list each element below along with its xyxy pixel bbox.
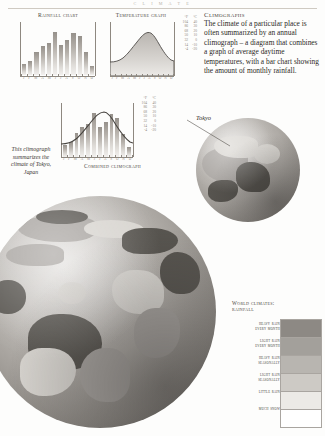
legend-label-line2: every month	[232, 343, 280, 348]
rainfall-bars	[21, 28, 95, 75]
legend: World climates: rainfall heavy rainevery…	[232, 300, 324, 421]
legend-label-line2: every month	[232, 326, 280, 331]
scale-tick-label: -20	[147, 128, 156, 133]
combined-climograph-panel: JFMAMJJASOND °F 1048668503214-4 °C 40302…	[55, 95, 170, 173]
temperature-c-ticks: 403020100-10-20	[188, 20, 197, 52]
combined-plot: JFMAMJJASOND °F 1048668503214-4 °C 40302…	[55, 103, 170, 163]
legend-label: light rainevery month	[232, 338, 280, 349]
scale-tick-label: -20	[188, 47, 197, 52]
combined-f-ticks: 1048668503214-4	[136, 101, 147, 133]
combined-scale-fahrenheit: °F 1048668503214-4	[136, 96, 147, 133]
page: C L I M A T E Rainfall chart JFMAMJJASON…	[0, 0, 325, 436]
legend-title-line2: rainfall	[232, 306, 324, 312]
scale-tick-label: -4	[177, 47, 188, 52]
temperature-chart-title: Temperature graph	[104, 12, 178, 18]
legend-swatch	[280, 355, 322, 373]
temperature-area-curve	[110, 22, 174, 76]
month-label: M	[46, 76, 53, 80]
tokyo-label: Tokyo	[196, 114, 211, 121]
combined-temperature-curve	[61, 103, 133, 157]
legend-swatch	[280, 337, 322, 355]
rainfall-y-axis-right	[95, 22, 96, 76]
month-label: M	[85, 157, 92, 161]
main-globe	[0, 196, 216, 428]
running-head: C L I M A T E	[0, 0, 325, 9]
combined-c-ticks: 403020100-10-20	[147, 101, 156, 133]
combined-scale-celsius: °C 403020100-10-20	[147, 96, 156, 133]
combined-climograph-title: Combined climograph	[55, 163, 170, 169]
left-caption: This climograph summarizes the climate o…	[8, 146, 54, 176]
temperature-plot: JFMAMJJASOND °F 1048668503214-4 °C 40302…	[104, 22, 196, 82]
tokyo-leader-line	[186, 118, 246, 152]
temperature-y-axis-right	[174, 22, 175, 76]
month-label: D	[127, 157, 133, 161]
legend-label-line2: seasonally	[232, 377, 280, 382]
temperature-f-ticks: 1048668503214-4	[177, 20, 188, 52]
month-label: D	[168, 76, 174, 80]
month-label: M	[72, 157, 79, 161]
scale-tick-label: -4	[136, 128, 147, 133]
temperature-scale-celsius: °C 403020100-10-20	[188, 15, 197, 52]
legend-label: light rainseasonally	[232, 372, 280, 383]
temperature-scale-fahrenheit: °F 1048668503214-4	[177, 15, 188, 52]
legend-swatch	[280, 391, 322, 409]
legend-label: heavy rainseasonally	[232, 355, 280, 366]
header-rule	[8, 8, 317, 9]
rainfall-plot: JFMAMJJASOND	[14, 22, 102, 82]
legend-label-line1: little rain	[232, 389, 280, 394]
legend-label: little rain	[232, 389, 280, 394]
running-head-text: C L I M A T E	[0, 0, 325, 8]
legend-label-line1: much snow	[232, 406, 280, 411]
legend-label: heavy rainevery month	[232, 321, 280, 332]
legend-label: much snow	[232, 406, 280, 411]
rainfall-chart-title: Rainfall chart	[14, 12, 102, 18]
legend-rows: heavy rainevery monthlight rainevery mon…	[232, 319, 324, 421]
intro-block: Climographs The climate of a particular …	[204, 11, 320, 75]
rainfall-chart-panel: Rainfall chart JFMAMJJASOND	[14, 12, 102, 82]
legend-swatch	[280, 373, 322, 391]
month-label: M	[32, 76, 39, 80]
intro-heading: Climographs	[204, 11, 320, 18]
temperature-chart-panel: Temperature graph JFMAMJJASOND °F	[104, 12, 196, 82]
combined-y-axis-right	[133, 103, 134, 157]
temperature-month-labels: JFMAMJJASOND	[110, 76, 174, 82]
legend-swatches	[280, 319, 322, 428]
legend-label-line2: seasonally	[232, 360, 280, 365]
rainfall-month-labels: JFMAMJJASOND	[21, 76, 95, 82]
legend-swatch	[280, 319, 322, 337]
intro-body: The climate of a particular place is oft…	[204, 19, 320, 75]
month-label: D	[89, 76, 95, 80]
legend-swatch	[280, 409, 322, 428]
